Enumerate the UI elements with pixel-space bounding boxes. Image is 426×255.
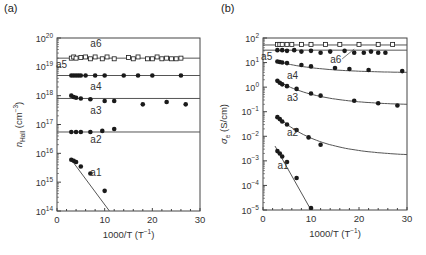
data-point bbox=[136, 73, 141, 78]
y-tick-label: 10−3 bbox=[242, 154, 260, 166]
panel-a-hall-concentration: 102010191018101710161015101401020301000/… bbox=[12, 32, 205, 241]
data-point bbox=[400, 69, 405, 74]
data-point bbox=[299, 42, 303, 46]
data-point bbox=[93, 55, 97, 59]
y-axis-label: σe (S/cm) bbox=[218, 104, 231, 144]
series-label-a2: a2 bbox=[287, 127, 299, 138]
data-point bbox=[342, 49, 347, 54]
series-label-a4: a4 bbox=[90, 81, 102, 92]
data-point bbox=[179, 56, 183, 60]
data-point bbox=[131, 57, 135, 61]
data-point bbox=[280, 119, 285, 124]
data-point bbox=[88, 97, 93, 102]
data-point bbox=[280, 42, 284, 46]
data-point bbox=[88, 57, 92, 61]
data-point bbox=[333, 66, 338, 71]
data-point bbox=[352, 50, 357, 55]
data-point bbox=[165, 56, 169, 60]
data-point bbox=[179, 73, 184, 78]
data-point bbox=[79, 96, 84, 101]
series-a6 bbox=[263, 42, 407, 46]
data-point bbox=[112, 57, 116, 61]
data-point bbox=[318, 93, 323, 98]
data-point bbox=[299, 49, 304, 54]
data-point bbox=[323, 42, 327, 46]
data-point bbox=[105, 55, 109, 59]
data-point bbox=[102, 99, 107, 104]
series-a2 bbox=[57, 127, 200, 135]
y-tick-label: 10−2 bbox=[242, 130, 260, 142]
y-tick-label: 1016 bbox=[36, 147, 54, 159]
series-label-a3: a3 bbox=[90, 105, 102, 116]
data-point bbox=[112, 99, 117, 104]
series-label-a5: a5 bbox=[56, 59, 68, 70]
x-tick-label: 30 bbox=[195, 214, 206, 225]
data-point bbox=[299, 63, 304, 68]
x-tick-label: 0 bbox=[260, 213, 265, 224]
y-axis-label: nHall (cm−3) bbox=[12, 102, 26, 148]
y-tick-label: 1018 bbox=[36, 89, 54, 101]
data-point bbox=[369, 49, 374, 54]
data-point bbox=[309, 64, 314, 69]
y-tick-label: 102 bbox=[245, 32, 259, 44]
data-point bbox=[280, 48, 285, 53]
data-point bbox=[84, 55, 88, 59]
series-label-a6: a6 bbox=[330, 54, 342, 65]
data-point bbox=[391, 42, 395, 46]
data-point bbox=[141, 102, 146, 107]
y-tick-label: 1020 bbox=[36, 32, 54, 44]
data-point bbox=[309, 206, 314, 211]
data-point bbox=[362, 50, 367, 55]
data-point bbox=[357, 42, 361, 46]
data-point bbox=[121, 73, 126, 78]
data-point bbox=[79, 164, 84, 169]
data-point bbox=[280, 154, 285, 159]
y-tick-label: 10−1 bbox=[242, 105, 260, 117]
series-label-a5: a5 bbox=[261, 51, 273, 62]
data-point bbox=[395, 103, 400, 108]
data-point bbox=[309, 42, 313, 46]
x-axis-label: 1000/T (T−1) bbox=[103, 228, 155, 240]
data-point bbox=[285, 42, 289, 46]
data-point bbox=[74, 95, 79, 100]
data-point bbox=[383, 50, 388, 55]
y-tick-label: 101 bbox=[245, 56, 259, 68]
data-point bbox=[164, 100, 169, 105]
data-point bbox=[285, 61, 290, 66]
data-point bbox=[275, 48, 280, 53]
data-point bbox=[150, 57, 154, 61]
data-point bbox=[74, 56, 78, 60]
data-point bbox=[150, 73, 155, 78]
data-point bbox=[160, 57, 164, 61]
x-tick-label: 0 bbox=[54, 214, 59, 225]
data-point bbox=[280, 60, 285, 65]
y-tick-label: 1015 bbox=[36, 176, 54, 188]
data-point bbox=[102, 189, 107, 194]
data-point bbox=[285, 84, 290, 89]
data-point bbox=[285, 49, 290, 54]
data-point bbox=[376, 42, 380, 46]
data-point bbox=[347, 67, 352, 72]
series-a6 bbox=[57, 55, 200, 61]
data-point bbox=[309, 49, 314, 54]
y-tick-label: 1019 bbox=[36, 60, 54, 72]
data-point bbox=[169, 57, 173, 61]
data-point bbox=[69, 130, 74, 135]
x-tick-label: 10 bbox=[306, 213, 317, 224]
data-point bbox=[112, 127, 117, 132]
data-point bbox=[294, 87, 299, 92]
data-point bbox=[83, 73, 88, 78]
data-point bbox=[309, 91, 314, 96]
panel-b-conductivity: 10210110010−110−210−310−410−501020301000… bbox=[218, 32, 412, 240]
data-point bbox=[102, 73, 107, 78]
x-tick-label: 30 bbox=[402, 213, 413, 224]
data-point bbox=[74, 130, 79, 135]
data-point bbox=[376, 50, 381, 55]
x-axis-label: 1000/T (T−1) bbox=[309, 227, 361, 239]
x-tick-label: 10 bbox=[99, 214, 110, 225]
data-point bbox=[318, 50, 323, 55]
data-point bbox=[292, 48, 297, 53]
y-tick-label: 1014 bbox=[36, 205, 54, 217]
data-point bbox=[146, 57, 150, 61]
data-point bbox=[79, 130, 84, 135]
